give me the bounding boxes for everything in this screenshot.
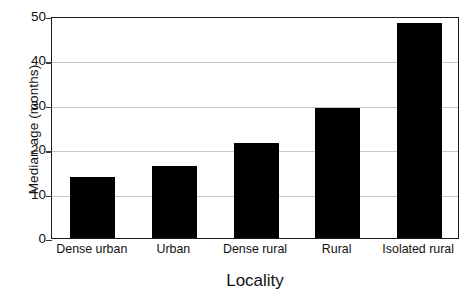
x-axis-title: Locality (51, 271, 459, 291)
bar (70, 177, 115, 238)
y-tick-label: 50 (17, 10, 46, 24)
bar (152, 166, 197, 238)
y-tick-label: 30 (17, 99, 46, 113)
y-tick-label: 10 (17, 188, 46, 202)
y-tick-mark (46, 151, 52, 152)
x-tick-label: Urban (157, 243, 191, 255)
bar (315, 108, 360, 238)
x-tick-label: Dense rural (223, 243, 287, 255)
x-axis-tick-labels: Dense urbanUrbanDense ruralRuralIsolated… (51, 243, 459, 263)
y-tick-mark (46, 18, 52, 19)
bar (234, 143, 279, 238)
y-tick-label: 40 (17, 55, 46, 69)
bar-chart-figure: Median age (months) 01020304050 Dense ur… (0, 0, 468, 302)
bar (397, 23, 442, 238)
y-tick-label: 20 (17, 143, 46, 157)
y-tick-mark (46, 240, 52, 241)
y-tick-mark (46, 62, 52, 63)
x-tick-label: Dense urban (56, 243, 127, 255)
plot-area (51, 17, 459, 239)
y-tick-mark (46, 196, 52, 197)
y-axis-tick-labels: 01020304050 (17, 0, 46, 302)
x-tick-label: Rural (322, 243, 352, 255)
bar-series (52, 18, 458, 238)
x-tick-label: Isolated rural (382, 243, 454, 255)
y-tick-label: 0 (17, 232, 46, 246)
y-tick-mark (46, 107, 52, 108)
